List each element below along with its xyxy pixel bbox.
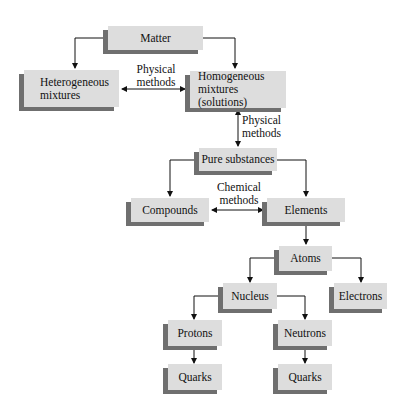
edge-label-physical-methods-2: Physical methods <box>242 114 282 140</box>
edge-atoms-nucleus <box>250 258 275 282</box>
node-label: Atoms <box>290 252 321 265</box>
node-label: Neutrons <box>284 327 326 340</box>
node-nucleus: Nucleus <box>223 283 277 309</box>
node-matter: Matter <box>108 26 203 50</box>
node-label: Electrons <box>339 290 382 303</box>
node-protons: Protons <box>168 320 222 346</box>
node-label: Homogeneous mixtures (solutions) <box>198 70 286 109</box>
node-label: Elements <box>285 204 328 217</box>
node-homogeneous-mixtures: Homogeneous mixtures (solutions) <box>190 71 286 108</box>
edge-pure-elements <box>277 160 306 196</box>
node-label: Compounds <box>142 204 198 217</box>
node-box: Neutrons <box>278 320 332 346</box>
node-label: Quarks <box>178 371 211 384</box>
matter-classification-diagram: Matter Heterogeneous mixtures Homogeneou… <box>0 0 407 414</box>
edge-label-chemical-methods: Chemical methods <box>211 181 267 207</box>
edge-nucleus-neutrons <box>277 296 305 319</box>
node-box: Atoms <box>279 246 332 271</box>
node-heterogeneous-mixtures: Heterogeneous mixtures <box>24 70 119 107</box>
node-quarks-neutrons: Quarks <box>278 364 332 390</box>
edge-nucleus-protons <box>194 296 219 319</box>
node-box: Electrons <box>334 283 387 309</box>
edge-label-physical-methods-1: Physical methods <box>128 63 184 89</box>
node-box: Nucleus <box>223 283 277 309</box>
node-compounds: Compounds <box>131 198 209 222</box>
node-atoms: Atoms <box>279 246 332 271</box>
node-box: Compounds <box>131 198 209 222</box>
node-box: Homogeneous mixtures (solutions) <box>190 71 286 108</box>
node-label: Matter <box>140 32 171 45</box>
node-box: Protons <box>168 320 222 346</box>
node-label: Protons <box>177 327 212 340</box>
node-label: Quarks <box>288 371 321 384</box>
node-label: Nucleus <box>231 290 269 303</box>
node-box: Quarks <box>278 364 332 390</box>
edge-atoms-electrons <box>332 258 361 282</box>
node-electrons: Electrons <box>334 283 387 309</box>
node-box: Elements <box>267 198 345 222</box>
node-label: Pure substances <box>201 153 274 166</box>
node-box: Heterogeneous mixtures <box>24 70 119 107</box>
node-elements: Elements <box>267 198 345 222</box>
node-quarks-protons: Quarks <box>168 364 222 390</box>
edge-pure-compounds <box>170 160 194 196</box>
node-box: Pure substances <box>199 148 277 171</box>
edge-matter-homogeneous <box>203 38 235 68</box>
edge-matter-heterogeneous <box>75 38 103 68</box>
node-neutrons: Neutrons <box>278 320 332 346</box>
node-pure-substances: Pure substances <box>199 148 277 171</box>
node-box: Quarks <box>168 364 222 390</box>
node-label: Heterogeneous mixtures <box>40 76 109 102</box>
node-box: Matter <box>108 26 203 50</box>
